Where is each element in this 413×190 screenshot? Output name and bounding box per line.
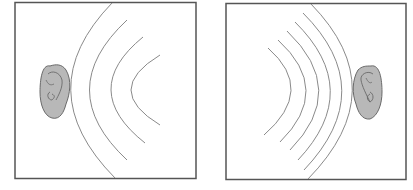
right-panel bbox=[226, 4, 406, 180]
sound-wave-diagram bbox=[0, 0, 413, 190]
left-panel bbox=[15, 3, 196, 179]
